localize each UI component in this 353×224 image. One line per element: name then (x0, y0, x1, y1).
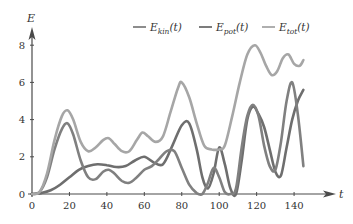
series-line-kin (32, 82, 303, 195)
legend-label: Etot(t) (278, 21, 310, 36)
x-tick-label: 100 (210, 200, 229, 211)
y-tick-label: 2 (19, 151, 25, 162)
x-tick-label: 60 (138, 200, 151, 211)
y-tick-label: 8 (19, 40, 25, 51)
x-tick-label: 40 (101, 200, 114, 211)
x-tick-label: 20 (63, 200, 76, 211)
y-tick-label: 6 (19, 77, 25, 88)
y-tick-label: 0 (19, 189, 25, 200)
legend-label: Ekin(t) (149, 21, 182, 36)
legend-label: Epot(t) (215, 21, 248, 36)
series-lines (32, 45, 303, 196)
x-tick-label: 120 (247, 200, 266, 211)
legend-item-kin: Ekin(t) (133, 21, 182, 36)
y-axis-label: E (26, 12, 35, 25)
legend: Ekin(t)Epot(t)Etot(t) (133, 21, 310, 36)
legend-item-tot: Etot(t) (262, 21, 310, 36)
legend-item-pot: Epot(t) (199, 21, 248, 36)
x-tick-label: 140 (285, 200, 304, 211)
x-tick-label: 80 (175, 200, 188, 211)
x-tick-label: 0 (29, 200, 35, 211)
x-axis-label: t (339, 188, 344, 201)
energy-chart: tE02040608010012014002468 Ekin(t)Epot(t)… (0, 0, 353, 224)
y-tick-label: 4 (19, 114, 25, 125)
